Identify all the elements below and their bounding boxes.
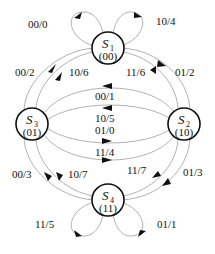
label-01-2: 01/2 — [175, 66, 195, 78]
state-diagram: S 1 (00) S 2 (10) S 3 (01) S 4 (11) 00/0… — [0, 0, 215, 254]
label-01-3: 01/3 — [183, 166, 203, 178]
state-s3-name: S — [26, 112, 33, 127]
arrow-icon — [150, 66, 156, 74]
arrow-icon — [74, 230, 82, 237]
label-01-0: 01/0 — [95, 124, 115, 136]
state-s2-code: (10) — [175, 126, 194, 139]
state-s3[interactable]: S 3 (01) — [16, 108, 48, 140]
label-10-4: 10/4 — [156, 15, 176, 27]
state-s4-name: S — [102, 188, 109, 203]
label-10-5: 10/5 — [95, 112, 115, 124]
label-00-1: 00/1 — [95, 90, 115, 102]
label-10-6: 10/6 — [69, 66, 89, 78]
edge-s2-s1-11-6 — [122, 52, 178, 108]
label-11-7: 11/7 — [127, 164, 147, 176]
edge-s1-s2-01-2 — [122, 48, 190, 112]
state-s2-name: S — [178, 112, 185, 127]
state-s1[interactable]: S 1 (00) — [92, 32, 124, 64]
arrow-icon — [162, 178, 171, 186]
state-s1-name: S — [102, 36, 109, 51]
label-01-1: 01/1 — [157, 218, 177, 230]
label-00-2: 00/2 — [15, 66, 35, 78]
state-s1-code: (00) — [99, 50, 118, 63]
state-s4-code: (11) — [99, 202, 117, 215]
label-00-0: 00/0 — [28, 18, 48, 30]
arrow-icon — [102, 105, 112, 111]
label-11-5: 11/5 — [35, 218, 55, 230]
label-11-4: 11/4 — [95, 146, 115, 158]
state-s3-code: (01) — [23, 126, 42, 139]
label-10-7: 10/7 — [68, 168, 88, 180]
state-s2[interactable]: S 2 (10) — [168, 108, 200, 140]
arrow-icon — [138, 230, 146, 237]
label-11-6: 11/6 — [126, 66, 146, 78]
label-00-3: 00/3 — [12, 168, 32, 180]
arrow-icon — [134, 12, 142, 18]
arrow-icon — [56, 172, 63, 181]
state-s4[interactable]: S 4 (11) — [92, 184, 124, 216]
arrow-icon — [55, 72, 62, 81]
edge-s3-s1-10-6 — [36, 52, 94, 108]
